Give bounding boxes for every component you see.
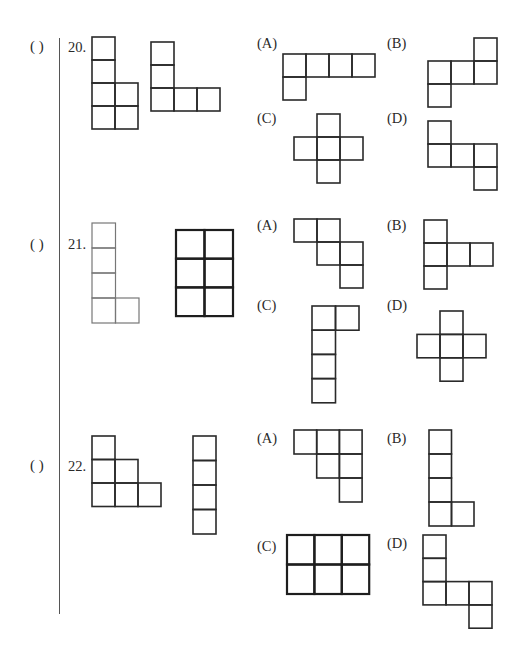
grid-cell: [115, 83, 138, 106]
grid-cell: [440, 334, 463, 357]
option-shape-22-a[interactable]: [294, 430, 362, 502]
grid-cell: [423, 582, 446, 605]
answer-blank-22[interactable]: ( ): [30, 457, 44, 473]
option-label-21-a[interactable]: (A): [257, 217, 277, 233]
grid-cell: [205, 287, 234, 316]
option-shape-22-d[interactable]: [423, 535, 492, 628]
option-shape-20-d[interactable]: [428, 121, 497, 190]
grid-cell: [423, 558, 446, 581]
grid-cell: [312, 306, 336, 330]
grid-cell: [336, 306, 360, 330]
grid-cell: [314, 535, 341, 565]
grid-cell: [317, 114, 340, 137]
option-shape-21-a[interactable]: [294, 219, 363, 288]
grid-cell: [174, 88, 197, 111]
option-label-22-a[interactable]: (A): [257, 430, 277, 446]
grid-cell: [428, 84, 451, 107]
grid-cell: [440, 358, 463, 381]
grid-cell: [469, 582, 492, 605]
grid-cell: [417, 334, 440, 357]
grid-cell: [339, 478, 362, 502]
grid-cell: [463, 334, 486, 357]
grid-cell: [176, 230, 205, 259]
grid-cell: [428, 61, 451, 84]
given-shape-22b: [193, 436, 216, 534]
grid-cell: [339, 430, 362, 454]
grid-cell: [294, 137, 317, 160]
option-label-20-c[interactable]: (C): [257, 110, 276, 126]
option-label-20-b[interactable]: (B): [387, 35, 406, 51]
grid-cell: [92, 83, 115, 106]
option-label-21-b[interactable]: (B): [387, 217, 406, 233]
grid-cell: [340, 137, 363, 160]
grid-cell: [115, 460, 138, 484]
option-label-22-c[interactable]: (C): [257, 538, 276, 554]
grid-cell: [92, 106, 115, 129]
grid-cell: [429, 454, 452, 478]
grid-cell: [429, 502, 452, 526]
grid-cell: [92, 248, 116, 273]
grid-cell: [115, 106, 138, 129]
grid-cell: [92, 436, 115, 460]
grid-cell: [428, 144, 451, 167]
given-shape-21b: [176, 230, 233, 316]
grid-cell: [176, 287, 205, 316]
grid-cell: [428, 121, 451, 144]
grid-cell: [312, 379, 336, 403]
option-shape-20-c[interactable]: [294, 114, 363, 183]
grid-cell: [329, 54, 352, 77]
grid-cell: [92, 460, 115, 484]
grid-cell: [306, 54, 329, 77]
grid-cell: [312, 354, 336, 378]
given-shape-21a: [92, 223, 139, 323]
grid-cell: [446, 582, 469, 605]
grid-cell: [205, 259, 234, 288]
option-label-21-c[interactable]: (C): [257, 297, 276, 313]
grid-cell: [342, 565, 369, 595]
grid-cell: [294, 430, 317, 454]
option-label-22-b[interactable]: (B): [387, 430, 406, 446]
grid-cell: [92, 298, 116, 323]
option-label-20-d[interactable]: (D): [387, 110, 407, 126]
grid-cell: [317, 430, 340, 454]
grid-cell: [474, 61, 497, 84]
grid-cell: [451, 61, 474, 84]
answer-blank-20[interactable]: ( ): [30, 38, 44, 54]
option-shape-20-b[interactable]: [428, 38, 497, 107]
grid-cell: [92, 60, 115, 83]
grid-cell: [283, 54, 306, 77]
grid-cell: [116, 298, 140, 323]
grid-cell: [193, 461, 216, 486]
question-number-22: 22.: [68, 458, 86, 474]
option-shape-20-a[interactable]: [283, 54, 375, 100]
grid-cell: [339, 454, 362, 478]
grid-cell: [151, 88, 174, 111]
grid-cell: [340, 265, 363, 288]
option-shape-21-b[interactable]: [424, 220, 493, 289]
grid-cell: [312, 330, 336, 354]
given-shape-20b: [151, 42, 220, 111]
grid-cell: [317, 137, 340, 160]
option-shape-21-d[interactable]: [417, 311, 486, 381]
grid-cell: [317, 219, 340, 242]
option-label-20-a[interactable]: (A): [257, 35, 277, 51]
grid-cell: [474, 38, 497, 61]
grid-cell: [317, 160, 340, 183]
grid-cell: [451, 144, 474, 167]
option-shape-22-c[interactable]: [287, 535, 369, 594]
option-label-22-d[interactable]: (D): [387, 535, 407, 551]
grid-cell: [193, 436, 216, 461]
grid-cell: [92, 273, 116, 298]
grid-cell: [151, 42, 174, 65]
option-label-21-d[interactable]: (D): [387, 297, 407, 313]
grid-cell: [193, 485, 216, 510]
grid-cell: [452, 502, 475, 526]
grid-cell: [474, 144, 497, 167]
option-shape-21-c[interactable]: [312, 306, 359, 403]
grid-cell: [429, 478, 452, 502]
grid-cell: [424, 266, 447, 289]
grid-cell: [92, 37, 115, 60]
answer-blank-21[interactable]: ( ): [30, 236, 44, 252]
grid-cell: [197, 88, 220, 111]
option-shape-22-b[interactable]: [429, 430, 474, 526]
